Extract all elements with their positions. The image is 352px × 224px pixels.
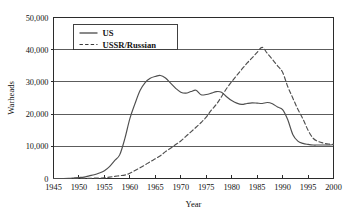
chart-legend: USUSSR/Russian [74, 25, 178, 50]
x-tick-label: 1980 [223, 183, 240, 192]
chart-container: 010,00020,00030,00040,00050,000 19451950… [0, 0, 352, 224]
x-tick-label: 1990 [274, 183, 291, 192]
x-axis-tick-labels: 1945195019551960196519701975198019851990… [45, 183, 342, 192]
y-tick-label: 10,000 [26, 142, 49, 151]
x-tick-label: 1970 [172, 183, 189, 192]
legend-label-ussr-russian: USSR/Russian [103, 40, 157, 50]
warheads-line-chart: 010,00020,00030,00040,00050,000 19451950… [0, 0, 352, 224]
x-tick-label: 1950 [71, 183, 88, 192]
x-tick-label: 1955 [96, 183, 113, 192]
y-tick-label: 50,000 [26, 14, 49, 23]
legend-label-us: US [103, 28, 114, 38]
x-tick-label: 1960 [122, 183, 139, 192]
y-axis-tick-labels: 010,00020,00030,00040,00050,000 [26, 14, 54, 184]
y-tick-label: 40,000 [26, 46, 49, 55]
data-series-group [54, 47, 334, 178]
series-line-us [54, 75, 334, 178]
x-tick-label: 1945 [45, 183, 62, 192]
x-tick-label: 1985 [249, 183, 266, 192]
x-tick-label: 2000 [325, 183, 342, 192]
x-axis-title: Year [186, 199, 202, 209]
x-tick-label: 1965 [147, 183, 164, 192]
x-tick-label: 1995 [300, 183, 317, 192]
series-line-ussr-russian [54, 47, 334, 178]
y-tick-label: 20,000 [26, 110, 49, 119]
x-tick-label: 1975 [198, 183, 215, 192]
y-tick-label: 30,000 [26, 78, 49, 87]
y-axis-title: Warheads [6, 81, 16, 115]
